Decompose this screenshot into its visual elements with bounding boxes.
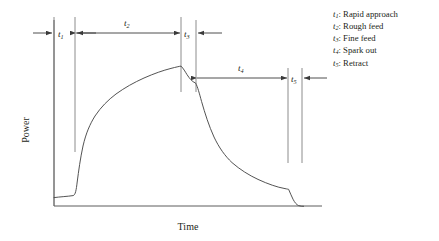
figure-canvas: t1 t2 t3 t4 t5 Power Time t1: Rapid appr… <box>0 0 439 241</box>
legend-label-t2: Rough feed <box>343 21 383 31</box>
legend: t1: Rapid approach t2: Rough feed t3: Fi… <box>333 9 439 70</box>
legend-label-t1: Rapid approach <box>343 9 398 19</box>
legend-item-t1: t1: Rapid approach <box>333 9 439 21</box>
phase-boundary-lines <box>54 17 302 206</box>
legend-item-t5: t5: Retract <box>333 58 439 70</box>
t4-label: t4 <box>238 63 244 74</box>
legend-item-t3: t3: Fine feed <box>333 33 439 45</box>
legend-item-t2: t2: Rough feed <box>333 21 439 33</box>
legend-label-t3: Fine feed <box>343 33 376 43</box>
t3-label: t3 <box>184 29 190 40</box>
t5-label: t5 <box>291 74 297 85</box>
t2-label: t2 <box>124 18 130 29</box>
legend-label-t5: Retract <box>343 58 368 68</box>
axes <box>54 20 322 206</box>
power-curve <box>54 66 304 206</box>
y-axis-title: Power <box>20 117 31 143</box>
legend-item-t4: t4: Spark out <box>333 45 439 57</box>
legend-label-t4: Spark out <box>343 45 377 55</box>
x-axis-title: Time <box>178 221 199 232</box>
t1-label: t1 <box>58 29 64 40</box>
axis-titles: Power Time <box>20 117 199 232</box>
dimension-labels: t1 t2 t3 t4 t5 <box>58 18 297 85</box>
